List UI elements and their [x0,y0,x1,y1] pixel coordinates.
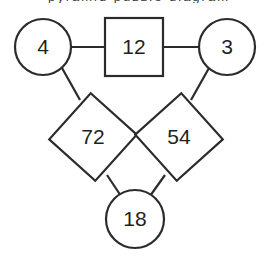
right-diamond-label: 54 [167,125,191,148]
node-top-left-circle[interactable]: 4 [15,19,71,75]
bottom-circle-label: 18 [123,207,146,230]
node-top-right-circle[interactable]: 3 [199,19,255,75]
connector-right-diamond-to-bottom-circle [150,175,165,196]
connector-left-diamond-to-bottom-circle [107,175,121,196]
top-square-label: 12 [122,35,145,58]
left-diamond-label: 72 [81,125,104,148]
puzzle-diagram-svg: 72 54 4 12 3 18 [0,0,278,269]
node-top-square[interactable]: 12 [105,18,163,76]
node-left-diamond[interactable]: 72 [49,93,137,181]
top-left-circle-label: 4 [37,35,49,58]
connector-right-circle-to-right-diamond [191,68,209,100]
node-bottom-circle[interactable]: 18 [106,190,164,248]
connector-left-circle-to-left-diamond [62,68,80,100]
top-right-circle-label: 3 [221,35,233,58]
node-right-diamond[interactable]: 54 [135,93,223,181]
puzzle-diagram-container: pyramid puzzle diagram 72 54 4 12 [0,0,278,269]
